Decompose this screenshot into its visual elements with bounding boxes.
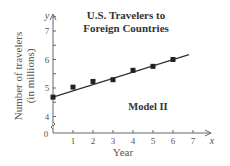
y-ticks: 4567 [45, 17, 56, 122]
y-axis-title-line2: (in millions) [24, 48, 37, 103]
axis-break-icon [51, 122, 55, 129]
data-point-marker [91, 79, 96, 84]
data-point-marker [51, 95, 56, 100]
x-tick-label: 2 [91, 136, 96, 146]
y-tick-label: 7 [45, 26, 50, 36]
origin-label: 0 [44, 129, 49, 139]
x-tick-label: 4 [131, 136, 136, 146]
data-point-marker [71, 85, 76, 90]
y-variable-label: y [44, 10, 50, 21]
x-tick-label: 1 [71, 136, 76, 146]
model-annotation: Model II [128, 101, 167, 112]
x-variable-label: x [209, 135, 215, 146]
x-tick-label: 3 [111, 136, 116, 146]
data-point-marker [131, 68, 136, 73]
data-point-marker [151, 64, 156, 69]
chart-title-line2: Foreign Countries [83, 22, 169, 34]
x-ticks: 1234567 [71, 130, 196, 146]
x-axis-title: Year [113, 146, 134, 158]
x-tick-label: 7 [191, 136, 196, 146]
trend-line [53, 55, 189, 97]
chart-title-line1: U.S. Travelers to [87, 9, 166, 21]
data-point-marker [171, 57, 176, 62]
y-tick-label: 4 [45, 112, 50, 122]
y-axis-title-line1: Number of travelers [12, 32, 24, 121]
chart: 4567 1234567 0 y x U.S. Travelers to For… [0, 0, 230, 166]
data-points [51, 57, 176, 100]
x-tick-label: 5 [151, 136, 156, 146]
data-point-marker [111, 77, 116, 82]
y-tick-label: 5 [45, 83, 50, 93]
y-tick-label: 6 [45, 55, 50, 65]
x-tick-label: 6 [171, 136, 176, 146]
